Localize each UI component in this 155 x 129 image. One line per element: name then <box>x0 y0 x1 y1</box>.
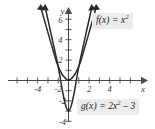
function-label-g-tail: – 3 <box>121 101 136 111</box>
y-axis-arrowhead <box>65 7 72 14</box>
function-label-g-equals: = <box>97 101 108 111</box>
y-tick-label-6: 6 <box>58 15 63 25</box>
x-tick-label--4: -4 <box>34 84 42 94</box>
figure-container: -4 -2 2 4 6 4 2 -2 -4 x y f(x) = x2 g(x)… <box>0 0 155 129</box>
y-tick-label--4: -4 <box>59 117 67 127</box>
y-tick-label-2: 2 <box>58 55 63 65</box>
x-tick-label-4: 4 <box>108 84 113 94</box>
function-label-f-exponent: 2 <box>125 13 128 20</box>
y-axis-name: y <box>60 6 65 16</box>
function-label-g-arg: (x) <box>86 101 97 111</box>
x-tick-label-2: 2 <box>87 84 92 94</box>
y-tick-label-4: 4 <box>58 35 63 45</box>
function-label-f-arg: (x) <box>99 15 110 25</box>
function-label-g: g(x) = 2x2 – 3 <box>77 99 139 115</box>
x-axis-name: x <box>140 84 145 94</box>
function-label-f: f(x) = x2 <box>92 13 133 29</box>
function-label-g-body: 2x <box>108 101 117 111</box>
function-label-f-equals: = <box>110 15 121 25</box>
